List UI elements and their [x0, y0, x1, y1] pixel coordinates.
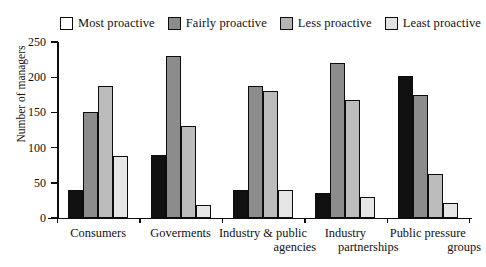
x-tick	[139, 218, 140, 223]
legend-item-least-proactive[interactable]: Least proactive	[385, 17, 481, 30]
bar[interactable]	[196, 205, 211, 218]
bar[interactable]	[443, 203, 458, 218]
chart-legend: Most proactive Fairly proactive Less pro…	[60, 17, 486, 30]
bar-group	[57, 42, 139, 218]
y-tick-label-50: 50	[10, 177, 46, 189]
legend-item-most-proactive[interactable]: Most proactive	[60, 17, 155, 30]
bar[interactable]	[278, 190, 293, 218]
x-axis-label-line: Public pressure	[375, 227, 481, 241]
bar[interactable]	[413, 95, 428, 218]
legend-swatch-less-proactive	[280, 17, 293, 30]
bar[interactable]	[248, 86, 263, 218]
y-tick-label-0: 0	[10, 212, 46, 224]
bar[interactable]	[166, 56, 181, 218]
legend-swatch-most-proactive	[60, 17, 73, 30]
bar[interactable]	[398, 76, 413, 218]
x-tick	[222, 218, 223, 223]
bar[interactable]	[151, 155, 166, 218]
bar[interactable]	[98, 86, 113, 218]
bar[interactable]	[360, 197, 375, 218]
bar-group	[304, 42, 386, 218]
bar-group	[222, 42, 304, 218]
bar[interactable]	[330, 63, 345, 218]
y-axis-title: Number of managers	[15, 29, 27, 159]
legend-label-fairly-proactive: Fairly proactive	[186, 17, 267, 30]
bar[interactable]	[263, 91, 278, 218]
legend-label-less-proactive: Less proactive	[298, 17, 372, 30]
x-tick	[469, 218, 470, 223]
bar[interactable]	[68, 190, 83, 218]
y-tick-label-100: 100	[10, 142, 46, 154]
bar[interactable]	[233, 190, 248, 218]
bar[interactable]	[181, 126, 196, 218]
bar[interactable]	[83, 112, 98, 218]
legend-item-less-proactive[interactable]: Less proactive	[280, 17, 372, 30]
x-tick	[304, 218, 305, 223]
plot-area	[57, 42, 469, 218]
bar-group	[387, 42, 469, 218]
y-tick-label-250: 250	[10, 36, 46, 48]
x-tick	[57, 218, 58, 223]
legend-swatch-least-proactive	[385, 17, 398, 30]
y-tick-label-200: 200	[10, 71, 46, 83]
y-tick-label-150: 150	[10, 106, 46, 118]
bar[interactable]	[345, 100, 360, 218]
bar[interactable]	[428, 174, 443, 218]
bar-group	[139, 42, 221, 218]
legend-item-fairly-proactive[interactable]: Fairly proactive	[168, 17, 267, 30]
x-tick	[387, 218, 388, 223]
legend-label-most-proactive: Most proactive	[78, 17, 155, 30]
legend-swatch-fairly-proactive	[168, 17, 181, 30]
bar[interactable]	[315, 193, 330, 218]
x-axis-label-line: groups	[375, 241, 481, 255]
legend-label-least-proactive: Least proactive	[403, 17, 481, 30]
bar[interactable]	[113, 156, 128, 218]
x-axis-label: Public pressuregroups	[375, 227, 481, 254]
